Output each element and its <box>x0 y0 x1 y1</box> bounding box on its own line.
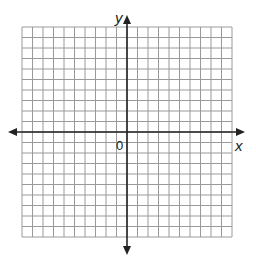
grid-svg <box>0 0 256 263</box>
origin-label: 0 <box>116 139 123 152</box>
y-axis-label: y <box>115 10 123 25</box>
x-axis-label: x <box>235 138 243 153</box>
